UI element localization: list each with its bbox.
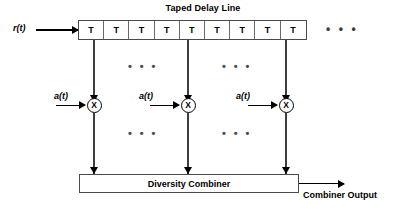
branch-2-weight-label: a(t) (139, 91, 153, 101)
ellipsis-upper-right: • • • (222, 60, 252, 72)
rake-receiver-diagram: Taped Delay Line r(t) T T T T T T T T T … (0, 0, 406, 209)
delay-tap-cell: T (79, 21, 104, 39)
delay-tap-cell: T (129, 21, 154, 39)
combiner-output-label: Combiner Output (303, 190, 377, 200)
branch-1-output-arrowhead (90, 167, 98, 174)
delay-tap-cell: T (180, 21, 205, 39)
tapped-delay-line: T T T T T T T T T (78, 20, 307, 40)
branch-1-tap-line (93, 40, 95, 98)
branch-2-weight-arrow (150, 105, 179, 107)
delay-tap-cell: T (104, 21, 129, 39)
combiner-output-arrow (299, 183, 344, 185)
branch-1-weight-arrow (56, 105, 85, 107)
delay-tap-cell: T (255, 21, 280, 39)
branch-3-tap-line (285, 40, 287, 98)
ellipsis-upper-left: • • • (128, 60, 158, 72)
branch-3-weight-arrow (248, 105, 277, 107)
ellipsis-lower-left: • • • (128, 127, 158, 139)
branch-3-output-arrowhead (282, 167, 290, 174)
delay-line-ellipsis: • • • (326, 22, 358, 36)
diagram-title: Taped Delay Line (0, 3, 406, 13)
branch-2-multiplier: X (181, 98, 196, 113)
branch-2-tap-line (187, 40, 189, 98)
branch-3-output-line (285, 112, 287, 174)
diversity-combiner-block: Diversity Combiner (79, 174, 299, 193)
branch-3-weight-label: a(t) (236, 91, 250, 101)
branch-3-multiplier: X (279, 98, 294, 113)
ellipsis-lower-right: • • • (222, 127, 252, 139)
branch-1-multiplier: X (87, 98, 102, 113)
input-arrow (36, 29, 78, 31)
branch-2-output-arrowhead (184, 167, 192, 174)
branch-1-weight-label: a(t) (54, 91, 68, 101)
delay-tap-cell: T (230, 21, 255, 39)
branch-1-output-line (93, 112, 95, 174)
branch-2-output-line (187, 112, 189, 174)
input-signal-label: r(t) (13, 23, 26, 33)
delay-tap-cell: T (205, 21, 230, 39)
delay-tap-cell: T (155, 21, 180, 39)
delay-tap-cell: T (281, 21, 306, 39)
